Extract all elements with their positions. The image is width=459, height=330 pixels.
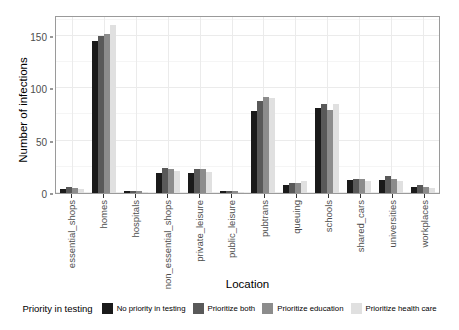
legend-item[interactable]: Prioritize both [193, 303, 256, 314]
bar-group [311, 17, 343, 193]
x-tick-label-wrap: non_essential_shops [160, 200, 174, 274]
x-tick-mark [231, 194, 232, 198]
bar [333, 104, 339, 193]
x-tick-label-wrap: private_leisure [192, 200, 206, 274]
x-tick-mark [71, 194, 72, 198]
y-tick-label: 0 [17, 189, 47, 200]
bar-group [407, 17, 439, 193]
legend-label: Prioritize both [208, 304, 256, 313]
y-tick-mark [50, 194, 53, 195]
x-tick-label: non_essential_shops [162, 200, 173, 289]
x-tick-label: hospitals [130, 200, 141, 238]
x-axis-labels: essential_shopshomeshospitalsnon_essenti… [55, 200, 440, 274]
bar [429, 188, 435, 193]
x-tick-label-wrap: hospitals [128, 200, 142, 274]
bar [78, 189, 84, 193]
x-tick-label: schools [322, 200, 333, 232]
bar-group [56, 17, 88, 193]
legend-item[interactable]: Prioritize education [262, 303, 343, 314]
bar [301, 181, 307, 193]
x-axis-ticks [55, 194, 440, 198]
bar-group [248, 17, 280, 193]
bar-group [120, 17, 152, 193]
x-tick-label-wrap: pubtrans [257, 200, 271, 274]
y-tick-mark [50, 141, 53, 142]
bar [206, 172, 212, 193]
x-tick-label: shared_cars [354, 200, 365, 252]
x-tick-label-wrap: universities [385, 200, 399, 274]
x-axis-title: Location [55, 278, 440, 290]
x-tick-label: pubtrans [258, 200, 269, 237]
x-tick-mark [199, 194, 200, 198]
legend: Priority in testing No priority in testi… [0, 303, 459, 314]
bar [238, 192, 244, 193]
x-tick-label: private_leisure [194, 200, 205, 262]
bar-group [88, 17, 120, 193]
bar [397, 181, 403, 193]
legend-label: Prioritize education [277, 304, 343, 313]
x-tick-label: homes [98, 200, 109, 229]
legend-color-swatch [351, 303, 362, 314]
legend-color-swatch [193, 303, 204, 314]
bar-chart-figure: Number of infections 050100150 essential… [0, 0, 459, 330]
x-tick-mark [328, 194, 329, 198]
x-tick-label-wrap: homes [96, 200, 110, 274]
x-tick-label: universities [386, 200, 397, 248]
bar-group [343, 17, 375, 193]
bar-group [216, 17, 248, 193]
legend-color-swatch [262, 303, 273, 314]
y-tick-label: 150 [17, 31, 47, 42]
bar-group [184, 17, 216, 193]
legend-label: Prioritize health care [366, 304, 437, 313]
x-tick-mark [360, 194, 361, 198]
y-tick-mark [50, 89, 53, 90]
y-tick-mark [50, 36, 53, 37]
x-tick-label-wrap: shared_cars [353, 200, 367, 274]
legend-item[interactable]: Prioritize health care [351, 303, 437, 314]
x-tick-mark [264, 194, 265, 198]
x-tick-mark [392, 194, 393, 198]
legend-label: No priority in testing [117, 304, 186, 313]
bar-group [375, 17, 407, 193]
bar-group [152, 17, 184, 193]
y-axis: 050100150 [14, 0, 53, 330]
x-tick-label-wrap: public_leisure [224, 200, 238, 274]
x-tick-mark [103, 194, 104, 198]
bar [174, 171, 180, 193]
x-tick-label: workplaces [418, 200, 429, 248]
bar [142, 192, 148, 193]
y-tick-label: 50 [17, 136, 47, 147]
x-tick-label: essential_shops [66, 200, 77, 268]
plot-panel [55, 16, 440, 194]
bar [110, 25, 116, 193]
x-tick-label-wrap: queuing [289, 200, 303, 274]
legend-item[interactable]: No priority in testing [102, 303, 186, 314]
x-tick-mark [135, 194, 136, 198]
bar-series-container [56, 17, 439, 193]
y-tick-label: 100 [17, 84, 47, 95]
x-tick-mark [424, 194, 425, 198]
bar [269, 98, 275, 193]
x-tick-label-wrap: schools [321, 200, 335, 274]
bar-group [279, 17, 311, 193]
legend-color-swatch [102, 303, 113, 314]
x-tick-label: public_leisure [226, 200, 237, 258]
legend-title: Priority in testing [22, 303, 92, 314]
x-tick-mark [296, 194, 297, 198]
x-tick-label-wrap: workplaces [417, 200, 431, 274]
x-tick-label: queuing [290, 200, 301, 234]
x-tick-label-wrap: essential_shops [64, 200, 78, 274]
x-tick-mark [167, 194, 168, 198]
bar [365, 181, 371, 193]
